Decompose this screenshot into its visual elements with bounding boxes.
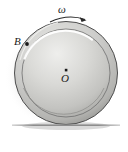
disk-center-o-dot <box>65 69 68 72</box>
disk-center-o-label: O <box>61 73 69 84</box>
angular-velocity-arrowhead <box>80 17 87 22</box>
rim-point-b-label: B <box>14 36 21 47</box>
rolling-disk-figure: ω B O <box>0 0 128 152</box>
rim-point-b-dot <box>25 42 29 46</box>
angular-velocity-label: ω <box>58 4 66 15</box>
ground-line <box>12 124 120 126</box>
